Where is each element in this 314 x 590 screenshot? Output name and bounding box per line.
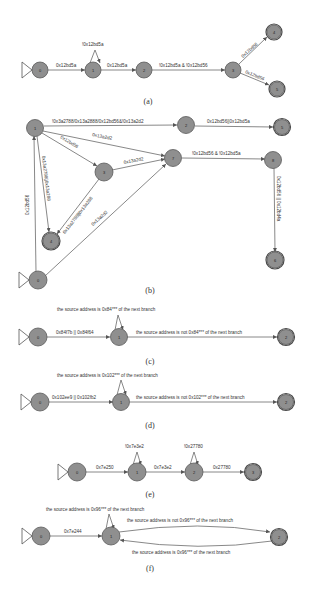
edge-label: !0x27780 [184, 444, 203, 449]
edge-label: 0x12bd56 || 0x12bd4a [276, 176, 281, 222]
edge-label: !0x12bd5a [82, 42, 104, 47]
edge-a-1-1 [90, 50, 100, 63]
edge-label: 0x12bd5a [56, 63, 77, 68]
edge-label: !0x7e3e2 [125, 444, 144, 449]
start-arrow-icon [22, 528, 32, 544]
figure-e: 0x7e250 !0x7e3e2 0x7e3e2 !0x27780 0x2778… [58, 444, 262, 499]
edge-label: the source address is 0x96*** of the nex… [46, 507, 145, 512]
edge-label: 0x7e244 [64, 529, 82, 534]
figure-a: 0x12bd5a !0x12bd5a 0x12bd5a !0x12bd5a & … [22, 24, 285, 106]
edge-label: 0x12bd56 [245, 69, 266, 81]
edge-f-2-1 [120, 540, 272, 546]
edge-d-1-1 [117, 380, 126, 395]
automata-figure: 0x12bd5a !0x12bd5a 0x12bd5a !0x12bd5a & … [0, 0, 314, 590]
figure-c: 0x84f7b || 0x84f64 the source address is… [19, 307, 295, 366]
figure-caption: (d) [145, 421, 155, 430]
edge-a-3-4 [239, 37, 267, 64]
edge-b-1-2 [44, 125, 177, 126]
edge-label: 0x27780 [213, 465, 231, 470]
figure-caption: (c) [146, 357, 155, 366]
edge-f-1-2 [119, 526, 270, 532]
start-arrow-icon [19, 329, 29, 345]
edge-label: 0x13a2d2 [90, 209, 109, 227]
start-arrow-icon [22, 62, 32, 78]
figure-caption: (e) [146, 490, 155, 499]
edge-label: the source address is not 0x84*** of the… [136, 330, 242, 335]
figure-caption: (f) [146, 564, 154, 573]
edge-label: 0x13a2788||0x13a288 [62, 195, 94, 234]
edge-label: !0x12bd5a & !0x12bd56 [159, 63, 208, 68]
edge-label: 0x12bd56 [25, 194, 30, 215]
edge-label: 0x12bd56||0x12bd5a [207, 119, 250, 124]
edge-label: !0x3a2788/0x13a2888/0x12bd56&!0x13a2d2 [52, 119, 144, 124]
figure-d: 0x102ee9 || 0x102fb2 the source address … [21, 373, 295, 430]
edge-label: the source address is not 0x102*** of th… [136, 395, 245, 400]
start-arrow-icon [19, 272, 29, 288]
edge-label: 0x13a2d2 [92, 132, 113, 141]
edge-c-1-1 [115, 315, 123, 330]
edge-b-7-8 [182, 158, 265, 159]
edge-label: 0x7e3e2 [154, 465, 172, 470]
edge-label: 0x7e250 [96, 465, 114, 470]
edge-label: 0x102ee9 || 0x102fb2 [52, 395, 96, 400]
edge-b-2-5 [195, 126, 273, 127]
start-arrow-icon [21, 394, 31, 410]
start-arrow-icon [58, 464, 68, 480]
figure-caption: (b) [145, 286, 155, 295]
edge-label: the source address is 0x96*** of the nex… [132, 550, 231, 555]
edge-label: the source address is 0x102*** of the ne… [57, 373, 158, 378]
edge-label: 0x84f7b || 0x84f64 [56, 330, 94, 335]
edge-label: 0x12bd5a [107, 63, 128, 68]
edge-label: 0x12bd56 [240, 41, 259, 59]
figure-f: 0x7e244 the source address is 0x96*** of… [22, 507, 288, 573]
figure-b: !0x3a2788/0x13a2888/0x12bd56&!0x13a2d2 0… [19, 117, 291, 296]
edge-b-8-6 [274, 168, 275, 252]
edge-label: !0x12bd56 & !0x12bd5a [192, 151, 241, 156]
figure-caption: (a) [144, 97, 153, 106]
edge-label: the source address is 0x84*** of the nex… [57, 307, 156, 312]
edge-label: the source address is not 0x96*** of the… [127, 518, 233, 523]
edge-b-0-1 [34, 136, 36, 272]
